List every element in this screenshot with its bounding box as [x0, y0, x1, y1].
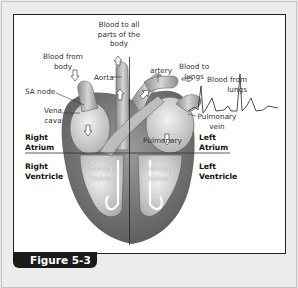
- label-artery: artery: [150, 66, 172, 76]
- label-sa-node: SA node: [25, 87, 55, 97]
- label-left-ventricle: Left Ventricle: [199, 162, 237, 181]
- label-vena-cava: Vena cava: [42, 106, 64, 125]
- label-pulmonary: Pulmonary: [143, 136, 182, 146]
- label-one-way-valve-right: One-way Valve: [83, 164, 119, 183]
- label-one-way-valve-left: One-way Valve: [140, 164, 176, 183]
- label-right-ventricle: Right Ventricle: [25, 162, 63, 181]
- label-pulmonary-vein: Pulmonary vein: [195, 112, 239, 131]
- label-left-atrium: Left Atrium: [199, 133, 228, 152]
- label-blood-from-body: Blood from body: [43, 52, 83, 71]
- figure-caption-tab: Figure 5-3: [13, 252, 97, 268]
- label-right-atrium: Right Atrium: [25, 133, 54, 152]
- artery-branch: [144, 76, 178, 92]
- label-blood-to-all-parts: Blood to all parts of the body: [92, 20, 146, 49]
- label-blood-from-lungs: Blood from lungs: [205, 75, 247, 94]
- label-aorta: Aorta: [94, 73, 114, 83]
